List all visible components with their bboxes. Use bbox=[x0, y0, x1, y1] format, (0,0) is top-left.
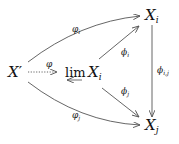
label-trans-ij: ϕi,j bbox=[157, 65, 169, 77]
label-phi: φ bbox=[46, 59, 53, 69]
label-proj-i: ϕi bbox=[121, 47, 129, 58]
arrow-proj-i bbox=[99, 26, 139, 59]
label-phi-i: φi bbox=[72, 24, 80, 35]
commutative-diagram: X′ lim Xi Xi Xj φi φj φ ϕi ϕj ϕi,j bbox=[0, 0, 179, 144]
node-x-j: Xj bbox=[144, 116, 159, 135]
node-lim-x: Xi bbox=[87, 63, 102, 82]
node-lim: lim bbox=[65, 65, 86, 80]
node-x-i: Xi bbox=[144, 6, 159, 25]
node-x-prime: X′ bbox=[7, 63, 23, 81]
label-proj-j: ϕj bbox=[121, 86, 129, 98]
